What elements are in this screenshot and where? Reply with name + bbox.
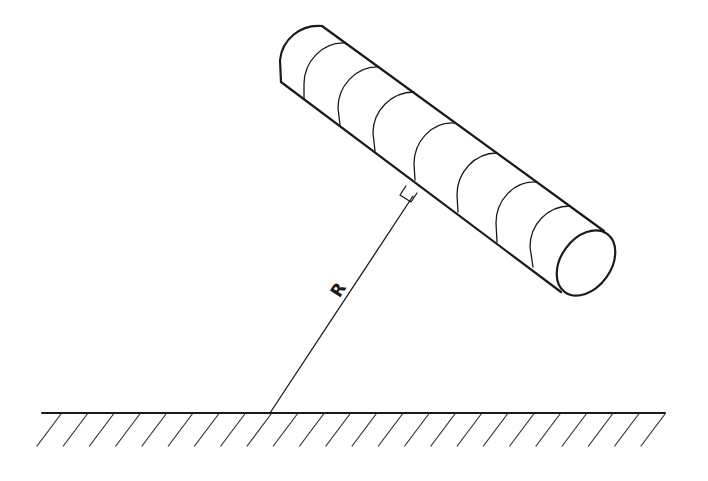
ground-hatch-mark [483,414,507,446]
ground-hatch-mark [510,414,534,446]
cylinder-left-cap [280,26,322,82]
ground-hatch-mark [300,414,324,446]
cylinder-top-edge [322,26,604,231]
cylinder [280,26,627,307]
cylinder-bottom-edge [281,82,561,292]
cylinder-winding-2 [338,67,379,125]
ground-hatch-mark [273,414,297,446]
ground-hatch-mark [90,414,114,446]
diagram-canvas: R [0,0,708,481]
ground-hatch-mark [142,414,166,446]
cylinder-winding-7 [530,206,570,267]
cylinder-winding-4 [414,123,454,180]
ground-hatch-mark [431,414,455,446]
ground-hatch-mark [405,414,429,446]
cylinder-winding-1 [304,43,345,99]
right-angle-marker [400,186,417,202]
distance-line [270,196,413,413]
ground-hatch-mark [641,414,665,446]
ground-hatch-mark [352,414,376,446]
ground-hatch-mark [247,414,271,446]
ground-hatch-mark [221,414,245,446]
cylinder-winding-6 [496,182,536,242]
ground-hatching [37,414,665,446]
ground-hatch-mark [378,414,402,446]
ground-hatch-mark [589,414,613,446]
ground-plane [37,413,665,446]
distance-indicator: R [270,186,417,413]
ground-hatch-mark [536,414,560,446]
ground-hatch-mark [195,414,219,446]
ground-hatch-mark [457,414,481,446]
cylinder-winding-3 [373,92,414,151]
ground-hatch-mark [168,414,192,446]
ground-hatch-mark [37,414,61,446]
ground-hatch-mark [615,414,639,446]
ground-hatch-mark [116,414,140,446]
ground-hatch-mark [63,414,87,446]
cylinder-right-cap [545,219,628,307]
ground-hatch-mark [326,414,350,446]
ground-hatch-mark [562,414,586,446]
cylinder-winding-5 [457,153,497,212]
